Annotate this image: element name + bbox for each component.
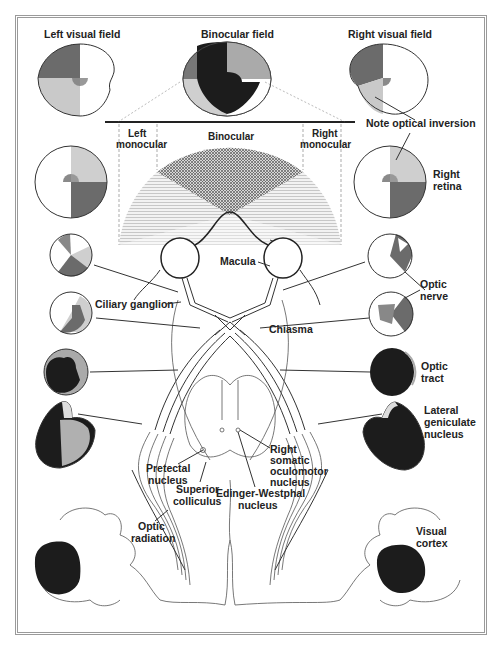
optic-radiation-label-1: Optic <box>138 520 165 532</box>
right-monocular-label-1: Right <box>312 128 338 139</box>
left-lgn-section <box>36 402 142 468</box>
right-visual-field <box>350 44 428 120</box>
ciliary-ganglion-label: Ciliary ganglion <box>95 298 174 310</box>
note-optical-inversion: Note optical inversion <box>366 117 476 129</box>
optic-nerve-label-1: Optic <box>420 278 447 290</box>
pretectal-label-1: Pretectal <box>146 462 190 474</box>
visual-cortex-label-2: cortex <box>416 537 448 549</box>
left-eye <box>134 238 199 300</box>
edinger-westphal-label-2: nucleus <box>238 499 278 511</box>
binocular-field-title: Binocular field <box>201 28 274 40</box>
optic-radiation-label-2: radiation <box>131 532 175 544</box>
optic-tract-label-2: tract <box>421 372 444 384</box>
left-visual-field <box>38 44 114 116</box>
right-monocular-label-2: monocular <box>300 139 351 150</box>
visual-cortex-label-1: Visual <box>416 525 447 537</box>
lgn-label-3: nucleus <box>424 428 464 440</box>
edinger-westphal-label-1: Edinger-Westphal <box>216 487 305 499</box>
right-optic-tract-section <box>280 348 415 396</box>
left-optic-tract-section <box>44 349 178 395</box>
left-monocular-label-1: Left <box>128 128 147 139</box>
optic-nerve-label-2: nerve <box>420 290 448 302</box>
right-retina-label-2: retina <box>433 180 462 192</box>
lgn-label-2: geniculate <box>424 416 476 428</box>
left-lgn-fan <box>132 432 190 585</box>
visual-pathway-diagram: Left visual field Binocular field Right … <box>0 0 501 653</box>
chiasma-label: Chiasma <box>269 323 313 335</box>
right-retina <box>354 133 426 218</box>
macula-label: Macula <box>220 255 256 267</box>
left-visual-field-title: Left visual field <box>44 28 120 40</box>
superior-colliculus-label-1: Superior <box>176 483 219 495</box>
left-retina <box>35 146 107 218</box>
right-lgn-section <box>318 402 424 470</box>
lgn-label-1: Lateral <box>424 404 459 416</box>
right-visual-field-title: Right visual field <box>348 28 432 40</box>
right-eye <box>264 238 320 305</box>
right-hemisphere-outline <box>230 508 460 606</box>
midbrain <box>185 375 275 457</box>
visual-field-fan <box>119 148 341 245</box>
right-retina-label-1: Right <box>433 168 460 180</box>
left-monocular-label-2: monocular <box>116 139 167 150</box>
binocular-field <box>183 42 271 116</box>
superior-colliculus-label-2: colliculus <box>173 495 222 507</box>
optic-nerves <box>182 278 278 335</box>
optic-tract-label-1: Optic <box>421 360 448 372</box>
left-visual-cortex <box>35 542 81 595</box>
right-visual-cortex <box>377 545 425 593</box>
binocular-zone-label: Binocular <box>208 131 254 142</box>
